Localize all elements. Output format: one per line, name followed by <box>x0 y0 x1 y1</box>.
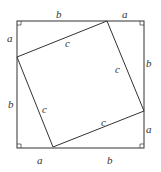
label-c-bottom: c <box>101 116 106 128</box>
label-c-left: c <box>42 103 47 115</box>
label-c-right: c <box>115 63 120 75</box>
right-angle-marker-bottom-left <box>17 144 21 148</box>
label-left-a: a <box>7 32 13 44</box>
pythagorean-proof-diagram: b a a b b a a b c c c c <box>0 0 161 172</box>
label-bottom-a: a <box>37 154 43 166</box>
label-left-b: b <box>8 98 14 110</box>
label-right-a: a <box>146 123 152 135</box>
label-top-a: a <box>122 8 128 20</box>
label-right-b: b <box>146 57 152 69</box>
right-angle-marker-top-left <box>17 21 21 25</box>
right-angle-marker-bottom-right <box>140 144 144 148</box>
outer-square <box>17 21 144 148</box>
right-angle-marker-top-right <box>140 21 144 25</box>
label-c-top: c <box>65 37 70 49</box>
label-top-b: b <box>56 8 62 20</box>
inner-square <box>17 21 144 147</box>
label-bottom-b: b <box>107 154 113 166</box>
